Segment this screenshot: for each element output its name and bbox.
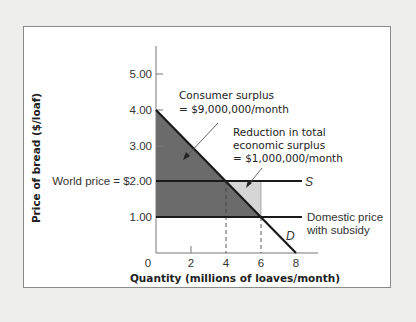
y-tick-1: 1.00 xyxy=(130,211,152,223)
y-tick-5: 5.00 xyxy=(130,68,152,80)
supply-label: S xyxy=(305,175,313,189)
reduction-label-1: Reduction in total xyxy=(233,126,326,138)
x-tick-0: 0 xyxy=(145,257,151,269)
world-price-label: World price = $2.00 xyxy=(52,175,152,187)
demand-label: D xyxy=(286,229,295,243)
y-tick-3: 3.00 xyxy=(130,140,152,152)
y-axis-title: Price of bread ($/loaf) xyxy=(30,93,42,223)
consumer-surplus-label: Consumer surplus xyxy=(179,89,274,101)
reduction-value: = $1,000,000/month xyxy=(233,152,343,164)
x-tick-4: 4 xyxy=(223,257,230,269)
consumer-surplus-value: = $9,000,000/month xyxy=(179,103,289,115)
y-tick-4: 4.00 xyxy=(130,104,152,116)
reduction-label-2: economic surplus xyxy=(233,139,325,151)
price-quantity-chart: 5.00 4.00 3.00 World price = $2.00 1.00 … xyxy=(0,0,416,322)
x-axis-title: Quantity (millions of loaves/month) xyxy=(130,272,340,284)
x-tick-8: 8 xyxy=(293,257,299,269)
x-tick-2: 2 xyxy=(188,257,194,269)
domestic-price-label-1: Domestic price xyxy=(307,211,383,223)
domestic-price-label-2: with subsidy xyxy=(306,224,370,236)
x-tick-6: 6 xyxy=(258,257,264,269)
